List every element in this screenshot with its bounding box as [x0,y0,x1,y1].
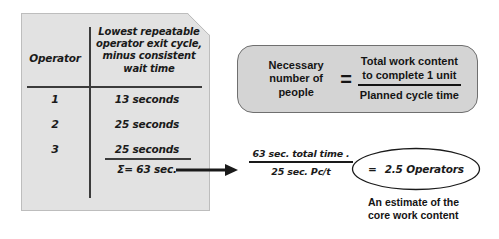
column-header-operator: Operator [21,52,89,64]
calculation-denominator: 25 sec. Pc/t [247,166,355,177]
table-row: 2 [21,118,89,131]
table-row: 13 seconds [91,93,203,105]
formula-left-term-line-2: number of [254,72,338,86]
table-header-divider [27,86,202,88]
calculation-fraction-bar [249,161,353,163]
formula-left-term-line-3: people [254,86,338,100]
table-row: 1 [21,93,89,106]
calculation-fraction: 63 sec. total time . 25 sec. Pc/t [247,148,355,177]
operator-cycle-time-note-sheet: Operator Lowest repeatable operator exit… [21,13,210,211]
column-header-exit-cycle-line-3: minus consistent [91,50,207,62]
calculation-numerator: 63 sec. total time . [247,148,355,161]
necessary-people-formula-box: Necessary number of people = Total work … [237,45,478,113]
formula-left-term-line-1: Necessary [254,59,338,73]
formula-fraction: Total work content to complete 1 unit Pl… [358,55,461,103]
result-label: = 2.5 Operators [351,147,481,191]
table-row: 3 [21,143,89,156]
operator-time-table: Operator Lowest repeatable operator exit… [21,13,210,211]
core-work-content-caption-line-1: An estimate of the [368,196,488,209]
column-header-exit-cycle-line-2: operator exit cycle, [91,38,207,50]
formula-left-term: Necessary number of people [254,59,338,100]
table-row: 25 seconds [91,118,203,130]
table-sum-divider [105,158,191,160]
result-value: 2.5 Operators [385,163,464,175]
formula-denominator: Planned cycle time [358,89,461,103]
column-header-exit-cycle-line-1: Lowest repeatable [91,26,207,38]
table-row: 25 seconds [91,143,203,155]
formula-numerator: Total work content to complete 1 unit [358,55,461,84]
formula-fraction-bar [358,84,461,86]
formula-numerator-line-2: to complete 1 unit [360,69,459,83]
formula-numerator-line-1: Total work content [360,55,459,69]
right-arrow-icon [176,162,240,178]
column-header-exit-cycle: Lowest repeatable operator exit cycle, m… [91,26,207,75]
formula-equals-sign: = [340,69,352,89]
result-ellipse: = 2.5 Operators [351,147,481,191]
core-work-content-caption: An estimate of the core work content [368,196,488,221]
column-header-exit-cycle-line-4: wait time [91,63,207,75]
result-equals-sign: = [368,163,377,175]
core-work-content-caption-line-2: core work content [368,209,488,222]
